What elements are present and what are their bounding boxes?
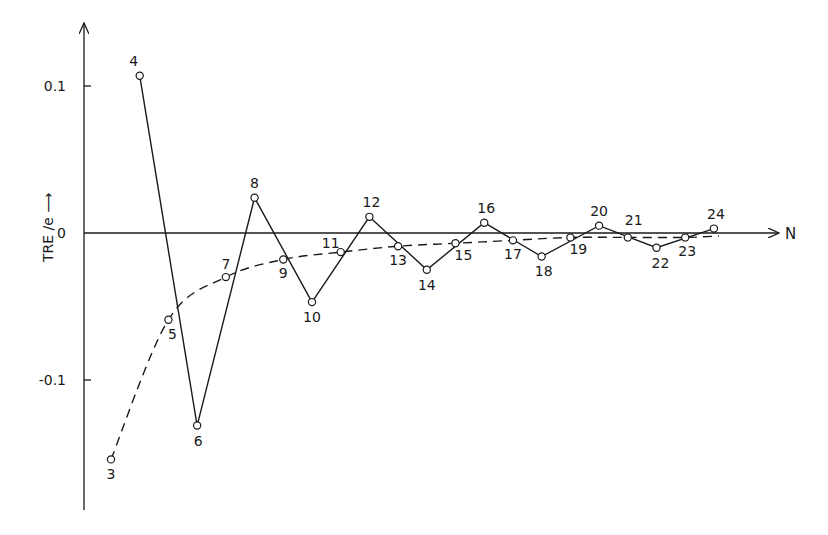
- dashed-series-odd-n: [111, 236, 719, 459]
- y-tick-label: 0.1: [44, 78, 66, 94]
- y-tick-label: -0.1: [39, 372, 66, 388]
- point-label: 6: [194, 433, 203, 449]
- data-point-marker: [251, 194, 258, 201]
- x-axis-label: N: [785, 225, 796, 243]
- data-point-markers: [107, 72, 717, 463]
- dashed-curve: [111, 236, 719, 459]
- data-point-marker: [538, 253, 545, 260]
- point-label: 14: [418, 277, 436, 293]
- point-label: 19: [569, 241, 587, 257]
- solid-zigzag: [140, 76, 714, 426]
- point-label: 7: [221, 256, 230, 272]
- tre-vs-n-chart: 0.10-0.1 3456789101112131415161718192021…: [0, 0, 828, 535]
- data-point-marker: [567, 234, 574, 241]
- y-tick-label: 0: [57, 225, 66, 241]
- data-point-marker: [395, 243, 402, 250]
- point-label: 23: [678, 243, 696, 259]
- data-point-marker: [423, 266, 430, 273]
- data-point-marker: [165, 316, 172, 323]
- point-label: 17: [504, 246, 522, 262]
- point-label: 12: [362, 194, 380, 210]
- point-label: 15: [455, 247, 473, 263]
- data-point-marker: [194, 422, 201, 429]
- data-point-marker: [280, 256, 287, 263]
- data-point-marker: [136, 72, 143, 79]
- data-point-marker: [653, 244, 660, 251]
- data-point-marker: [452, 240, 459, 247]
- point-label: 4: [129, 53, 138, 69]
- point-label: 13: [389, 252, 407, 268]
- solid-series-even-n: [140, 76, 714, 426]
- point-label: 20: [590, 203, 608, 219]
- point-label: 11: [322, 235, 340, 251]
- y-axis-label: TRE /e ⟶: [40, 193, 56, 263]
- point-label: 18: [535, 263, 553, 279]
- point-label: 22: [652, 255, 670, 271]
- data-point-marker: [308, 298, 315, 305]
- data-point-marker: [595, 222, 602, 229]
- point-label: 21: [625, 212, 643, 228]
- data-point-marker: [366, 213, 373, 220]
- data-point-marker: [682, 234, 689, 241]
- point-label: 24: [707, 206, 725, 222]
- data-point-marker: [481, 219, 488, 226]
- data-point-marker: [624, 234, 631, 241]
- point-label: 5: [168, 326, 177, 342]
- point-label: 8: [250, 175, 259, 191]
- data-point-marker: [509, 237, 516, 244]
- point-label: 10: [303, 309, 321, 325]
- data-point-marker: [107, 456, 114, 463]
- point-label: 9: [279, 265, 288, 281]
- data-point-marker: [222, 274, 229, 281]
- point-label: 16: [477, 200, 495, 216]
- data-point-marker: [710, 225, 717, 232]
- point-label: 3: [107, 466, 116, 482]
